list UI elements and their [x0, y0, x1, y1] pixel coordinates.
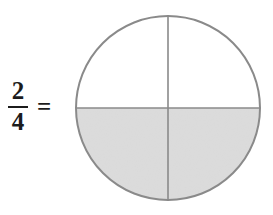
fraction-two-fourths: 2 4: [8, 78, 28, 134]
circle-model-svg: [73, 13, 263, 203]
fraction-expression: 2 4 =: [8, 76, 51, 136]
equals-sign: =: [37, 94, 51, 119]
fraction-denominator: 4: [9, 109, 28, 135]
fraction-model-figure: 2 4 =: [0, 0, 273, 215]
fraction-numerator: 2: [9, 78, 28, 104]
circle-fraction-model: [73, 13, 263, 203]
